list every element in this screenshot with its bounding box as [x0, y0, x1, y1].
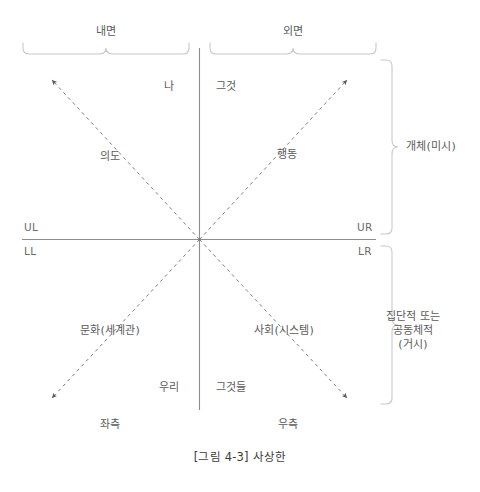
quadrant-code-ll: LL	[24, 245, 37, 257]
quadrant-dimension-lr: 사회(시스템)	[254, 324, 314, 338]
arrow-to-upper-left	[52, 80, 200, 240]
arrow-to-lower-right	[200, 240, 348, 399]
brace-label-individual-micro: 개체(미시)	[406, 140, 456, 154]
axis-label-right-side: 우측	[278, 418, 298, 432]
quadrant-dimension-ll: 문화(세계관)	[80, 324, 140, 338]
quadrant-pronoun-lr: 그것들	[216, 381, 247, 395]
quadrant-code-ur: UR	[357, 221, 373, 233]
arrow-to-upper-right	[200, 80, 348, 240]
arrow-to-lower-left	[52, 240, 200, 399]
quadrant-dimension-ur: 행동	[277, 148, 297, 162]
quadrant-diagram-svg	[0, 0, 480, 492]
quadrant-dimension-ul: 의도	[100, 150, 120, 164]
brace-top-right	[210, 43, 376, 54]
quadrant-code-ul: UL	[24, 221, 38, 233]
figure-container: 내면 외면 개체(미시) 집단적 또는 공동체적 (거시) 나 그것 우리 그것…	[0, 0, 480, 492]
quadrant-code-lr: LR	[358, 245, 372, 257]
quadrant-pronoun-ur: 그것	[216, 80, 236, 94]
quadrant-pronoun-ll: 우리	[159, 381, 179, 395]
brace-top-left	[23, 43, 189, 54]
brace-label-collective-line-3: (거시)	[363, 338, 463, 352]
brace-label-collective-line-2: 공동체적	[363, 324, 463, 338]
brace-label-exterior: 외면	[283, 25, 303, 39]
figure-caption: [그림 4-3] 사상한	[0, 449, 480, 465]
brace-right-upper	[381, 60, 398, 234]
brace-label-collective-line-1: 집단적 또는	[363, 310, 463, 324]
brace-label-collective-macro: 집단적 또는 공동체적 (거시)	[363, 310, 463, 352]
brace-label-interior: 내면	[96, 25, 116, 39]
axis-label-left-side: 좌측	[100, 418, 120, 432]
axis-lines	[22, 48, 376, 410]
quadrant-pronoun-ul: 나	[164, 80, 174, 94]
